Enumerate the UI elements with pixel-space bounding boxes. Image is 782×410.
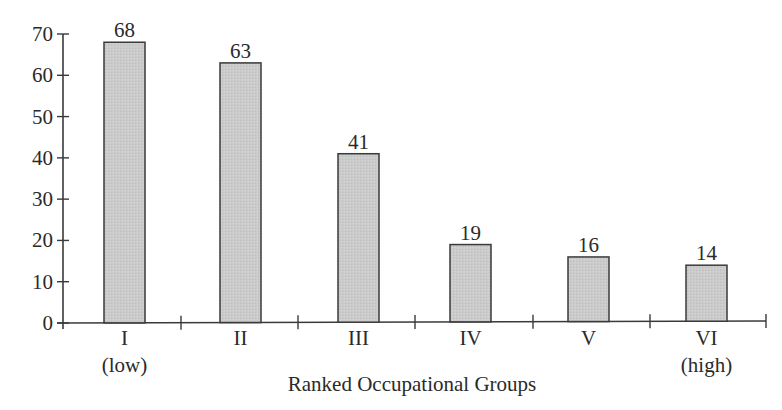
y-tick-label: 70 xyxy=(32,22,53,46)
bar-6: 14VI(high) xyxy=(681,241,732,377)
y-tick-label: 60 xyxy=(32,63,53,87)
category-label: V xyxy=(581,326,596,350)
category-sublabel: (high) xyxy=(681,353,732,377)
bar-value-label: 41 xyxy=(348,130,369,154)
bar-value-label: 14 xyxy=(696,241,718,265)
bar-value-label: 19 xyxy=(460,221,481,245)
bar-1: 68I(low) xyxy=(102,18,148,377)
category-label: VI xyxy=(695,326,717,350)
category-label: I xyxy=(121,326,128,350)
y-tick-label: 20 xyxy=(32,228,53,252)
bar-value-label: 63 xyxy=(230,39,251,63)
category-label: IV xyxy=(459,326,481,350)
bar-2: 63II xyxy=(220,39,261,350)
y-axis: 010203040506070 xyxy=(32,22,69,335)
bar-3: 41III xyxy=(338,130,379,350)
bar-value-label: 16 xyxy=(578,233,599,257)
y-tick-label: 40 xyxy=(32,146,53,170)
x-axis-title: Ranked Occupational Groups xyxy=(288,372,536,396)
y-tick-label: 10 xyxy=(32,270,53,294)
category-label: III xyxy=(348,326,369,350)
bar-4: 19IV xyxy=(450,221,491,350)
category-label: II xyxy=(234,326,248,350)
y-tick-label: 50 xyxy=(32,105,53,129)
x-axis xyxy=(57,314,766,330)
y-tick-label: 30 xyxy=(32,187,53,211)
y-tick-label: 0 xyxy=(43,311,54,335)
bar-5: 16V xyxy=(568,233,609,350)
category-sublabel: (low) xyxy=(102,353,148,377)
bar-chart: 010203040506070 68I(low)63II41III19IV16V… xyxy=(0,0,782,410)
bar-value-label: 68 xyxy=(114,18,135,42)
